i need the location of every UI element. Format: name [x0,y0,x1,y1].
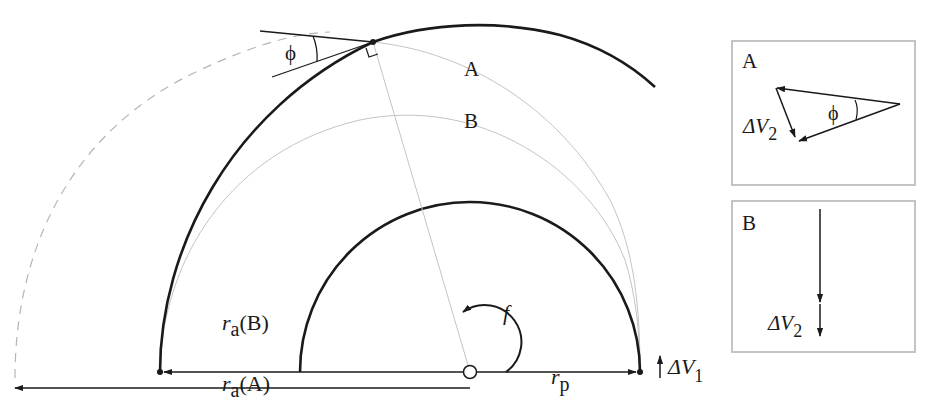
radius-line [373,42,470,372]
inset-b-title: B [742,211,756,235]
apoapsis-b-point [157,369,163,375]
phi-label: ϕ [285,41,296,65]
orbit-a-label: A [464,57,480,81]
rp-label: rp [551,364,570,396]
inset-b: B ΔV2 [732,201,915,352]
focus-body [464,366,477,379]
inset-a-title: A [742,49,758,73]
orbit-b-label: B [464,109,478,133]
true-anomaly-label: f [503,300,512,325]
orbit-a-dashed-arc [15,32,330,378]
ra-a-label: ra(A) [222,371,270,401]
dv1-label: ΔV1 [667,354,703,386]
orbit-diagram: ϕ A B f ra(B) ra(A) rp ΔV1 A ϕ [0,0,927,404]
true-anomaly-arc [463,305,521,372]
phi-angle-arc [313,36,317,62]
tangent-point [370,39,376,45]
inset-a-phi: ϕ [828,102,839,125]
ra-b-label: ra(B) [222,310,269,340]
orbit-inner-circle [300,202,640,372]
inset-a: A ϕ ΔV2 [732,41,915,185]
periapsis-point [637,369,643,375]
